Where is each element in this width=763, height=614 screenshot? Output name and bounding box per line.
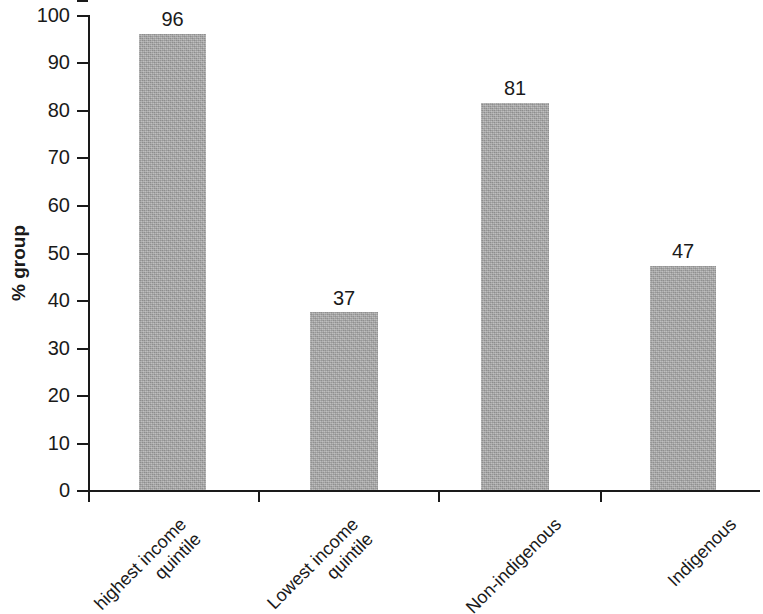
y-tick-70b [77, 157, 88, 159]
y-tick-40 [77, 300, 88, 302]
bar-value-lowest-income-quintile: 37 [310, 288, 378, 308]
y-tick-label-20: 20 [0, 385, 70, 405]
x-category-label-line1: Non-indigenous [462, 514, 565, 614]
x-category-label-line1: Indigenous [664, 514, 740, 590]
x-category-label-non-indigenous: Non-indigenous [427, 514, 566, 614]
y-tick-label-40: 40 [0, 290, 70, 310]
y-tick-80 [77, 110, 88, 112]
bar-highest-income-quintile [139, 34, 206, 490]
y-tick-30 [77, 348, 88, 350]
x-category-label-indigenous: Indigenous [602, 514, 741, 614]
x-tick-1 [258, 490, 260, 502]
y-tick-100 [77, 15, 88, 17]
x-tick-0 [88, 490, 90, 502]
x-category-label-lowest-income-quintile: Lowest income quintile [224, 514, 378, 614]
y-tick-20 [77, 395, 88, 397]
x-axis-line [88, 490, 760, 492]
y-axis-line [88, 15, 90, 491]
y-tick-label-100: 100 [0, 5, 70, 25]
bar-value-non-indigenous: 81 [481, 78, 549, 98]
y-tick-label-10: 10 [0, 433, 70, 453]
y-tick-label-0: 0 [0, 480, 70, 500]
bar-lowest-income-quintile [310, 312, 378, 490]
y-tick-10 [77, 443, 88, 445]
y-tick-70 [77, 0, 88, 2]
bar-value-indigenous: 47 [650, 241, 716, 261]
x-tick-3 [600, 490, 602, 502]
bar-value-highest-income-quintile: 96 [139, 9, 206, 29]
x-category-label-highest-income-quintile: highest income quintile [52, 514, 206, 614]
y-tick-label-60: 60 [0, 195, 70, 215]
bar-non-indigenous [481, 103, 549, 490]
y-tick-label-30: 30 [0, 338, 70, 358]
y-tick-0 [77, 490, 88, 492]
y-tick-90 [77, 62, 88, 64]
x-tick-2 [438, 490, 440, 502]
y-tick-label-70: 70 [0, 147, 70, 167]
y-tick-label-90: 90 [0, 52, 70, 72]
y-tick-label-50: 50 [0, 243, 70, 263]
y-tick-60 [77, 205, 88, 207]
bar-chart: % group 100 90 80 70 60 50 40 30 20 10 [0, 0, 763, 614]
y-tick-50 [77, 253, 88, 255]
y-tick-label-80: 80 [0, 100, 70, 120]
bar-indigenous [650, 266, 716, 490]
